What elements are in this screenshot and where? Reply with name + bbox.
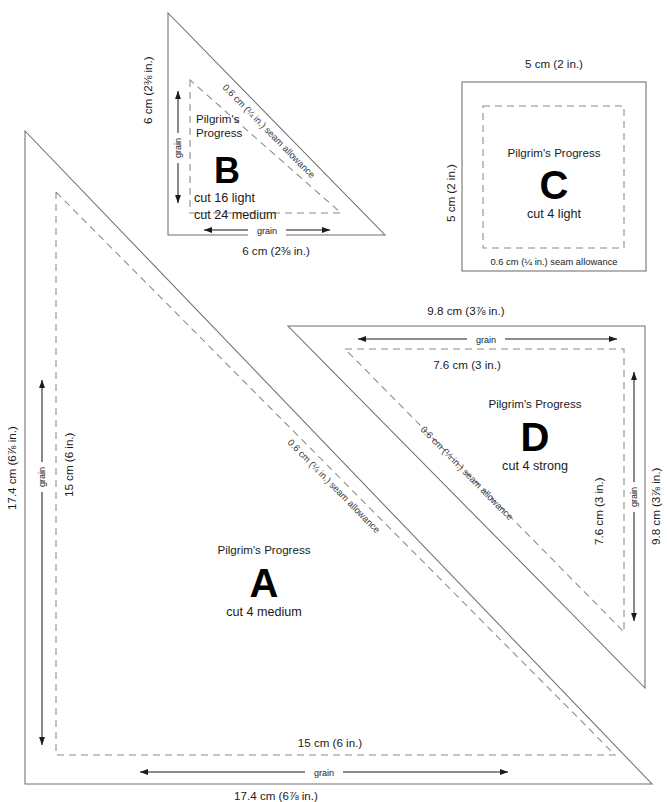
template-d-inner-right-dimension: 7.6 cm (3 in.) bbox=[592, 477, 605, 545]
template-d-grain-label-top: grain bbox=[476, 335, 496, 345]
template-a-letter: A bbox=[250, 561, 279, 605]
template-b-cut-line-0: cut 16 light bbox=[194, 191, 255, 205]
templates-diagram: 6 cm (2⅜ in.) grain Pilgrim's Progress B… bbox=[0, 0, 667, 802]
template-a-grain-label-vertical: grain bbox=[37, 467, 47, 487]
template-a-grain-label-horizontal: grain bbox=[314, 768, 334, 778]
template-b-grain-label-vertical: grain bbox=[173, 138, 183, 158]
template-d-top-dimension: 9.8 cm (3⅞ in.) bbox=[427, 304, 504, 317]
template-c-letter: C bbox=[540, 163, 569, 207]
template-c-cut-line-0: cut 4 light bbox=[527, 207, 581, 221]
template-sheet: 6 cm (2⅜ in.) grain Pilgrim's Progress B… bbox=[0, 0, 667, 802]
template-a-seamline bbox=[56, 192, 615, 755]
template-b-grain-label-horizontal: grain bbox=[257, 226, 277, 236]
template-c-pattern-name: Pilgrim's Progress bbox=[507, 146, 600, 159]
template-c-top-dimension: 5 cm (2 in.) bbox=[525, 57, 583, 70]
template-a-outer-bottom-dimension: 17.4 cm (6⅞ in.) bbox=[234, 789, 318, 802]
template-b-cut-line-1: cut 24 medium bbox=[194, 208, 277, 222]
template-a-outer-left-dimension: 17.4 cm (6⅞ in.) bbox=[5, 426, 18, 510]
template-d-cut-line-0: cut 4 strong bbox=[502, 459, 568, 473]
template-b-group: 6 cm (2⅜ in.) grain Pilgrim's Progress B… bbox=[141, 13, 385, 257]
template-a-outline bbox=[25, 131, 652, 784]
template-a-pattern-name: Pilgrim's Progress bbox=[217, 543, 310, 556]
template-a-inner-left-dimension: 15 cm (6 in.) bbox=[62, 432, 75, 497]
template-c-left-dimension: 5 cm (2 in.) bbox=[444, 164, 457, 222]
template-d-letter: D bbox=[521, 415, 550, 459]
template-b-left-dimension: 6 cm (2⅜ in.) bbox=[141, 56, 154, 124]
template-a-inner-bottom-dimension: 15 cm (6 in.) bbox=[298, 736, 363, 749]
template-c-group: 5 cm (2 in.) 5 cm (2 in.) Pilgrim's Prog… bbox=[444, 57, 646, 271]
template-b-letter: B bbox=[214, 150, 240, 191]
template-a-seam-allowance-label: 0.6 cm (¼ in.) seam allowance bbox=[286, 437, 383, 535]
template-a-cut-line-0: cut 4 medium bbox=[226, 605, 302, 619]
template-c-seam-allowance-label: 0.6 cm (¼ in.) seam allowance bbox=[490, 256, 617, 267]
template-b-pattern-name-line2: Progress bbox=[196, 126, 243, 139]
template-d-grain-label-right: grain bbox=[629, 487, 639, 507]
template-d-outer-right-dimension: 9.8 cm (3⅞ in.) bbox=[649, 468, 662, 545]
template-d-pattern-name: Pilgrim's Progress bbox=[488, 397, 581, 410]
template-b-bottom-dimension: 6 cm (2⅜ in.) bbox=[242, 244, 310, 257]
template-b-pattern-name-line1: Pilgrim's bbox=[196, 112, 240, 125]
template-d-inner-top-dimension: 7.6 cm (3 in.) bbox=[433, 358, 501, 371]
